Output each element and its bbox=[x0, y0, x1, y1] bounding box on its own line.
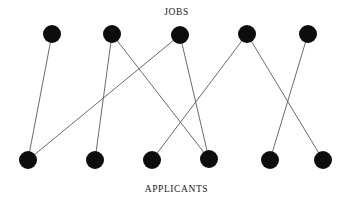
applicant-node-a5 bbox=[261, 151, 279, 169]
job-node-j1 bbox=[43, 25, 61, 43]
graph-edge bbox=[28, 35, 180, 160]
graph-canvas bbox=[0, 0, 353, 205]
graph-edge bbox=[270, 34, 308, 160]
applicant-node-a2 bbox=[86, 151, 104, 169]
graph-edge bbox=[152, 34, 247, 160]
jobs-nodes-group bbox=[43, 25, 317, 44]
graph-edge bbox=[95, 34, 112, 160]
job-node-j5 bbox=[299, 25, 317, 43]
applicant-node-a3 bbox=[143, 151, 161, 169]
applicant-node-a1 bbox=[19, 151, 37, 169]
applicant-node-a6 bbox=[314, 151, 332, 169]
job-node-j4 bbox=[238, 25, 256, 43]
graph-edge bbox=[247, 34, 323, 160]
bipartite-graph-figure: JOBS APPLICANTS bbox=[0, 0, 353, 205]
graph-edge bbox=[28, 34, 52, 160]
edges-group bbox=[28, 34, 323, 160]
applicant-node-a4 bbox=[200, 150, 218, 168]
applicants-label: APPLICANTS bbox=[0, 184, 353, 194]
applicants-nodes-group bbox=[19, 150, 332, 169]
job-node-j3 bbox=[171, 26, 189, 44]
job-node-j2 bbox=[103, 25, 121, 43]
